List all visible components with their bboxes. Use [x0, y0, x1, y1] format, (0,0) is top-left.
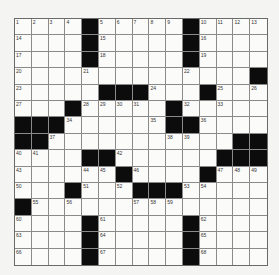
answer-square[interactable]: 32	[183, 101, 200, 117]
answer-square[interactable]	[32, 183, 49, 199]
answer-square[interactable]	[166, 85, 183, 101]
answer-square[interactable]: 58	[149, 199, 166, 215]
answer-square[interactable]: 38	[166, 134, 183, 150]
answer-square[interactable]	[49, 249, 66, 265]
answer-square[interactable]	[49, 232, 66, 248]
answer-square[interactable]	[82, 117, 99, 133]
answer-square[interactable]	[49, 85, 66, 101]
answer-square[interactable]	[233, 216, 250, 232]
answer-square[interactable]: 7	[133, 19, 150, 35]
answer-square[interactable]	[49, 150, 66, 166]
answer-square[interactable]	[217, 183, 234, 199]
answer-square[interactable]: 45	[99, 167, 116, 183]
answer-square[interactable]	[166, 35, 183, 51]
answer-square[interactable]	[65, 216, 82, 232]
answer-square[interactable]: 62	[200, 216, 217, 232]
answer-square[interactable]: 41	[32, 150, 49, 166]
answer-square[interactable]	[200, 150, 217, 166]
answer-square[interactable]	[133, 52, 150, 68]
answer-square[interactable]: 9	[166, 19, 183, 35]
answer-square[interactable]	[32, 68, 49, 84]
answer-square[interactable]: 44	[82, 167, 99, 183]
answer-square[interactable]	[166, 232, 183, 248]
answer-square[interactable]	[233, 68, 250, 84]
answer-square[interactable]: 1	[15, 19, 32, 35]
answer-square[interactable]: 50	[15, 183, 32, 199]
answer-square[interactable]	[149, 134, 166, 150]
answer-square[interactable]	[250, 52, 267, 68]
answer-square[interactable]: 30	[116, 101, 133, 117]
answer-square[interactable]	[233, 199, 250, 215]
answer-square[interactable]	[133, 68, 150, 84]
answer-square[interactable]	[32, 101, 49, 117]
answer-square[interactable]	[133, 150, 150, 166]
answer-square[interactable]	[217, 134, 234, 150]
answer-square[interactable]: 68	[200, 249, 217, 265]
answer-square[interactable]: 37	[49, 134, 66, 150]
answer-square[interactable]: 49	[250, 167, 267, 183]
answer-square[interactable]: 15	[99, 35, 116, 51]
answer-square[interactable]	[233, 101, 250, 117]
answer-square[interactable]	[82, 134, 99, 150]
answer-square[interactable]	[99, 68, 116, 84]
answer-square[interactable]	[32, 232, 49, 248]
answer-square[interactable]	[166, 249, 183, 265]
answer-square[interactable]	[32, 216, 49, 232]
answer-square[interactable]: 47	[217, 167, 234, 183]
answer-square[interactable]	[149, 150, 166, 166]
answer-square[interactable]: 35	[149, 117, 166, 133]
answer-square[interactable]: 34	[65, 117, 82, 133]
answer-square[interactable]	[200, 134, 217, 150]
answer-square[interactable]: 10	[200, 19, 217, 35]
answer-square[interactable]	[65, 35, 82, 51]
answer-square[interactable]	[250, 101, 267, 117]
answer-square[interactable]	[217, 68, 234, 84]
answer-square[interactable]: 54	[200, 183, 217, 199]
answer-square[interactable]	[133, 134, 150, 150]
answer-square[interactable]: 11	[217, 19, 234, 35]
answer-square[interactable]: 8	[149, 19, 166, 35]
answer-square[interactable]	[65, 167, 82, 183]
answer-square[interactable]: 2	[32, 19, 49, 35]
answer-square[interactable]	[250, 117, 267, 133]
answer-square[interactable]	[49, 183, 66, 199]
answer-square[interactable]	[32, 52, 49, 68]
answer-square[interactable]	[49, 101, 66, 117]
answer-square[interactable]: 43	[15, 167, 32, 183]
answer-square[interactable]: 27	[15, 101, 32, 117]
answer-square[interactable]: 53	[183, 183, 200, 199]
answer-square[interactable]	[217, 216, 234, 232]
answer-square[interactable]	[32, 35, 49, 51]
answer-square[interactable]	[200, 101, 217, 117]
answer-square[interactable]	[149, 167, 166, 183]
answer-square[interactable]	[149, 249, 166, 265]
answer-square[interactable]	[250, 232, 267, 248]
answer-square[interactable]	[233, 117, 250, 133]
answer-square[interactable]	[99, 134, 116, 150]
answer-square[interactable]	[133, 232, 150, 248]
answer-square[interactable]	[65, 68, 82, 84]
answer-square[interactable]	[217, 117, 234, 133]
answer-square[interactable]	[49, 199, 66, 215]
answer-square[interactable]	[65, 85, 82, 101]
answer-square[interactable]	[32, 249, 49, 265]
answer-square[interactable]	[149, 216, 166, 232]
answer-square[interactable]	[233, 232, 250, 248]
answer-square[interactable]	[116, 199, 133, 215]
answer-square[interactable]: 40	[15, 150, 32, 166]
answer-square[interactable]: 4	[65, 19, 82, 35]
answer-square[interactable]: 51	[82, 183, 99, 199]
answer-square[interactable]: 18	[99, 52, 116, 68]
answer-square[interactable]: 46	[133, 167, 150, 183]
answer-square[interactable]	[250, 183, 267, 199]
answer-square[interactable]: 52	[116, 183, 133, 199]
answer-square[interactable]: 6	[116, 19, 133, 35]
answer-square[interactable]	[116, 232, 133, 248]
answer-square[interactable]	[116, 52, 133, 68]
answer-square[interactable]: 24	[149, 85, 166, 101]
answer-square[interactable]	[49, 167, 66, 183]
answer-square[interactable]: 5	[99, 19, 116, 35]
answer-square[interactable]: 67	[99, 249, 116, 265]
answer-square[interactable]: 61	[99, 216, 116, 232]
answer-square[interactable]	[233, 52, 250, 68]
